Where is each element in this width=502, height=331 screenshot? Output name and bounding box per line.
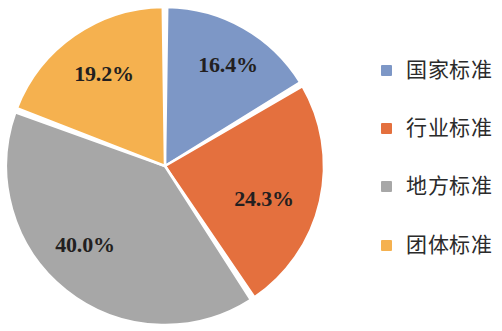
pie-slices-group bbox=[6, 7, 324, 325]
legend-item-label: 国家标准 bbox=[406, 58, 492, 82]
legend-color-swatch bbox=[381, 181, 392, 192]
legend-item-label: 行业标准 bbox=[406, 116, 492, 140]
legend-color-swatch bbox=[381, 240, 392, 251]
legend-item[interactable]: 行业标准 bbox=[381, 116, 492, 140]
pie-slice-percent-label: 16.4% bbox=[198, 52, 258, 77]
legend-color-swatch bbox=[381, 65, 392, 76]
pie-slice-percent-label: 40.0% bbox=[55, 232, 115, 257]
pie-slice-percent-label: 24.3% bbox=[234, 186, 294, 211]
legend-color-swatch bbox=[381, 123, 392, 134]
legend-item[interactable]: 团体标准 bbox=[381, 233, 492, 257]
legend-item-label: 团体标准 bbox=[406, 233, 492, 257]
chart-legend: 国家标准行业标准地方标准团体标准 bbox=[381, 48, 502, 288]
pie-chart-figure: 16.4%24.3%40.0%19.2% 国家标准行业标准地方标准团体标准 bbox=[0, 0, 502, 331]
legend-item-label: 地方标准 bbox=[406, 174, 492, 198]
pie-slice-percent-label: 19.2% bbox=[74, 61, 134, 86]
legend-item[interactable]: 国家标准 bbox=[381, 58, 492, 82]
legend-item[interactable]: 地方标准 bbox=[381, 174, 492, 198]
